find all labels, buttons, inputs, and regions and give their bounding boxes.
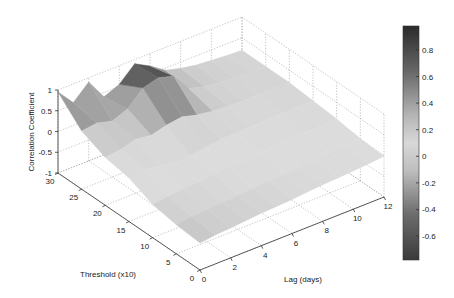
z-tick-label: 0.5 [41, 107, 53, 116]
colorbar-tick-label: 0.4 [422, 99, 434, 108]
y-tick-label: 25 [69, 193, 78, 202]
x-tick-label: 10 [353, 214, 362, 223]
colorbar-tick-label: 0.8 [422, 46, 434, 55]
x-tick-label: 2 [232, 263, 237, 272]
y-tick-label: 0 [190, 274, 195, 283]
y-axis-label: Threshold (x10) [80, 270, 136, 279]
z-tick-label: -1 [45, 169, 53, 178]
colorbar-gradient [403, 26, 419, 260]
z-axis-label: Correlation Coefficient [27, 92, 36, 172]
x-tick-label: 6 [294, 239, 299, 248]
z-tick-label: 0 [48, 128, 53, 137]
x-tick-label: 4 [263, 251, 268, 260]
colorbar-tick-label: -0.2 [422, 179, 436, 188]
colorbar-tick-label: 0 [422, 152, 427, 161]
x-tick-label: 12 [384, 202, 393, 211]
x-tick-label: 8 [324, 226, 329, 235]
x-tick-label: 0 [202, 275, 207, 284]
y-tick-label: 10 [140, 242, 149, 251]
surface-chart: 024681012051015202530-1-0.500.51 Correla… [0, 0, 454, 298]
y-tick-label: 30 [46, 177, 55, 186]
colorbar-tick-label: -0.4 [422, 205, 436, 214]
colorbar-tick-label: -0.6 [422, 232, 436, 241]
x-axis-label: Lag (days) [284, 275, 322, 284]
y-tick-label: 20 [93, 209, 102, 218]
y-tick-label: 5 [166, 258, 171, 267]
colorbar-tick-label: 0.2 [422, 126, 434, 135]
surface-plot [58, 50, 384, 243]
z-tick-label: 1 [48, 86, 53, 95]
y-tick-label: 15 [117, 226, 126, 235]
colorbar: 0.80.60.40.20-0.2-0.4-0.6 [403, 26, 436, 260]
colorbar-tick-label: 0.6 [422, 73, 434, 82]
z-tick-label: -0.5 [38, 148, 52, 157]
